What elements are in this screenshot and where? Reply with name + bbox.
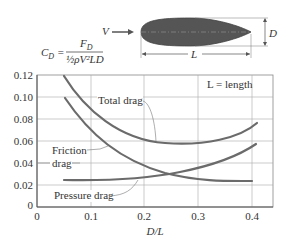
svg-text:0.12: 0.12 [14,69,33,81]
svg-text:0: 0 [28,199,34,211]
svg-text:0.08: 0.08 [14,113,34,125]
friction-label-line2: drag [52,157,72,169]
streamlined-body-diagram: V D L [102,18,277,60]
y-axis-ticks: 0.12 0.10 0.08 0.06 0.04 0.02 0 [14,69,34,211]
svg-text:0.02: 0.02 [14,179,33,191]
svg-text:0.04: 0.04 [14,157,34,169]
total-drag-label: Total drag [98,94,143,106]
drag-chart-figure: V D L CD = FD ½ρV²LD [0,0,289,248]
svg-text:0.4: 0.4 [245,210,259,222]
svg-text:0.2: 0.2 [137,210,151,222]
svg-text:CD =: CD = [41,46,64,61]
x-axis-label: D/L [145,225,163,237]
svg-text:½ρV²LD: ½ρV²LD [66,53,104,65]
x-axis-ticks: 0 0.1 0.2 0.3 0.4 [34,210,259,222]
svg-text:0.10: 0.10 [14,91,34,103]
svg-text:0.1: 0.1 [84,210,98,222]
length-annotation: L = length [207,78,253,90]
friction-label-line1: Friction [52,144,87,156]
svg-text:0.3: 0.3 [191,210,205,222]
svg-text:FD: FD [79,37,93,52]
drag-coefficient-formula: CD = FD ½ρV²LD [41,37,104,65]
diameter-label: D [268,27,277,39]
length-label: L [190,48,197,60]
svg-text:0.06: 0.06 [14,135,34,147]
velocity-symbol: V [102,25,110,37]
svg-text:0: 0 [34,210,40,222]
pressure-drag-label: Pressure drag [54,189,114,201]
velocity-arrowhead-icon [128,29,134,35]
